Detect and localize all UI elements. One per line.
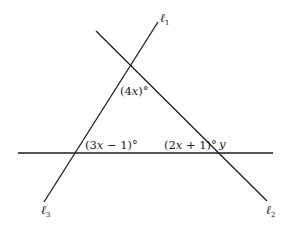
label-l3: ℓ3 [41,203,50,219]
label-l2: ℓ2 [266,203,275,219]
line-l1-l3 [44,22,158,202]
angle-y-label: y [218,137,226,151]
angle-bottom-right-label: (2x + 1)° [164,138,217,152]
line-l2 [96,31,267,201]
triangle-lines-diagram: ℓ1 ℓ2 ℓ3 (4x)° (3x − 1)° (2x + 1)° y [0,0,287,225]
angle-bottom-left-label: (3x − 1)° [85,138,138,152]
angle-top-label: (4x)° [120,84,149,98]
label-l1: ℓ1 [160,11,169,27]
